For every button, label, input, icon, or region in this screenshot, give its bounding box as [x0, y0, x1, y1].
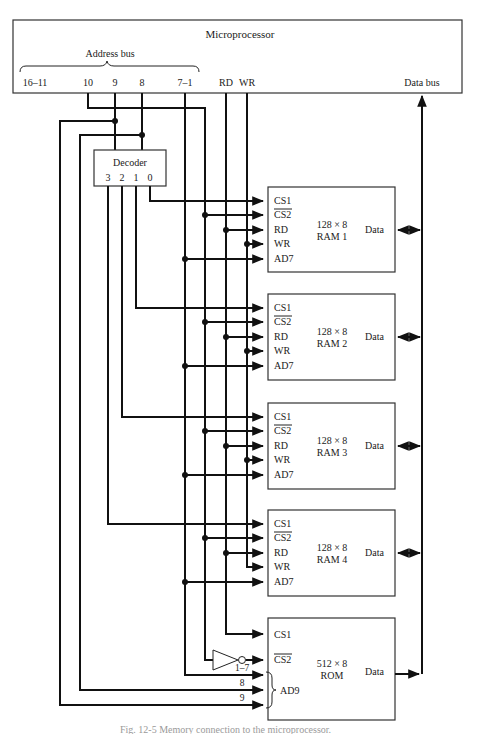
rom-addr-1-7: 1–7	[235, 663, 250, 673]
ram3-rd: RD	[274, 440, 288, 451]
a9-rom-branch	[60, 121, 263, 705]
wr-line-label: WR	[239, 77, 255, 88]
address-line-10: 10	[83, 77, 93, 88]
ram2-data: Data	[365, 331, 384, 342]
ram2-ad7: AD7	[274, 360, 293, 371]
ram3-data: Data	[365, 440, 384, 451]
decoder-title: Decoder	[113, 157, 148, 168]
ram3-name: RAM 3	[317, 447, 347, 458]
ram2-cs2: CS2	[274, 316, 291, 327]
address-line-7-1: 7–1	[178, 77, 193, 88]
ram4-cs2: CS2	[274, 532, 291, 543]
ram-4: CS1 CS2 RD WR AD7 128 × 8 RAM 4 Data	[182, 510, 420, 596]
ram1-name: RAM 1	[317, 231, 347, 242]
decoder-output-2: 2	[120, 172, 125, 183]
ram1-cs2: CS2	[274, 209, 291, 220]
ram4-rd: RD	[274, 547, 288, 558]
decoder-output-1: 1	[134, 172, 139, 183]
rom-name: ROM	[321, 670, 344, 681]
ram-2: CS1 CS2 RD WR AD7 128 × 8 RAM 2 Data	[182, 294, 420, 380]
decoder-output-0: 0	[148, 172, 153, 183]
ram1-rd: RD	[274, 224, 288, 235]
ram3-cs1: CS1	[274, 411, 291, 422]
decoder-out-2-wire	[122, 186, 263, 417]
address-line-16-11: 16–11	[23, 77, 48, 88]
rom-ad9: AD9	[280, 685, 299, 696]
ram3-ad7: AD7	[274, 469, 293, 480]
ram3-size: 128 × 8	[317, 435, 348, 446]
ram4-ad7: AD7	[274, 576, 293, 587]
ram1-ad7: AD7	[274, 253, 293, 264]
ram3-cs2: CS2	[274, 425, 291, 436]
ram4-name: RAM 4	[317, 554, 347, 565]
a7-1-wire	[185, 93, 263, 675]
microprocessor-block: Microprocessor Address bus 16–11 10 9 8 …	[13, 20, 462, 93]
ram2-cs1: CS1	[274, 302, 291, 313]
address-bus-label: Address bus	[85, 48, 134, 59]
ram1-size: 128 × 8	[317, 219, 348, 230]
ram2-rd: RD	[274, 331, 288, 342]
memory-connection-diagram: Microprocessor Address bus 16–11 10 9 8 …	[0, 0, 480, 734]
rom-addr-9: 9	[240, 693, 245, 703]
ram2-name: RAM 2	[317, 338, 347, 349]
ram1-wr: WR	[274, 238, 290, 249]
microprocessor-title: Microprocessor	[205, 28, 274, 40]
ram1-cs1: CS1	[274, 195, 291, 206]
rom-data: Data	[365, 666, 384, 677]
decoder-output-3: 3	[106, 172, 111, 183]
address-line-8: 8	[140, 77, 145, 88]
rom-cs1: CS1	[274, 629, 291, 640]
figure-caption: Fig. 12-5 Memory connection to the micro…	[120, 724, 331, 734]
rd-line-label: RD	[219, 77, 233, 88]
wr-wire	[247, 93, 263, 567]
ram4-wr: WR	[274, 561, 290, 572]
ram-1: CS1 CS2 RD WR AD7 128 × 8 RAM 1 Data	[182, 187, 420, 272]
ram-3: CS1 CS2 RD WR AD7 128 × 8 RAM 3 Data	[182, 403, 420, 489]
data-bus-label: Data bus	[404, 77, 439, 88]
rom-cs2: CS2	[274, 654, 291, 665]
decoder-out-1-wire	[136, 186, 263, 308]
address-line-9: 9	[113, 77, 118, 88]
ram4-cs1: CS1	[274, 518, 291, 529]
ram1-data: Data	[365, 224, 384, 235]
ram2-size: 128 × 8	[317, 326, 348, 337]
ram4-data: Data	[365, 547, 384, 558]
ram4-size: 128 × 8	[317, 542, 348, 553]
ram3-wr: WR	[274, 454, 290, 465]
rom-size: 512 × 8	[317, 658, 348, 669]
ram2-wr: WR	[274, 345, 290, 356]
rom-addr-8: 8	[240, 678, 245, 688]
